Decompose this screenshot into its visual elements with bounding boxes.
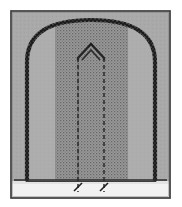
stippled-infill [55,18,128,180]
figure-root: Arched elevation with stippled infill an… [0,0,182,207]
architectural-elevation-drawing [0,0,182,207]
